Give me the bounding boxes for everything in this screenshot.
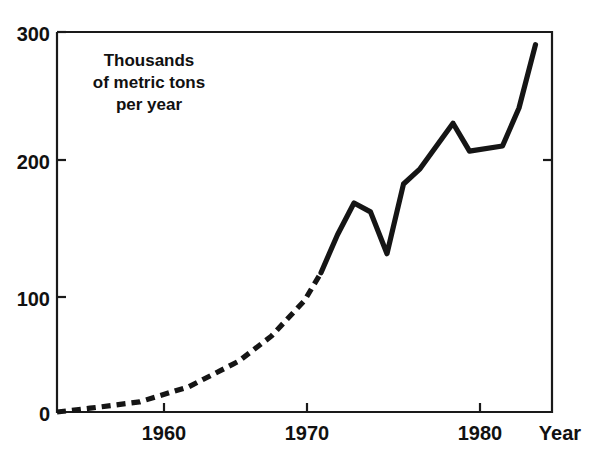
x-axis-title: Year <box>539 422 581 444</box>
ytick-label-300: 300 <box>17 23 50 45</box>
units-annotation-line-3: per year <box>116 95 183 114</box>
chart-container: 300 200 100 0 1960 1970 1980 Year Thousa… <box>0 0 604 457</box>
ytick-label-0: 0 <box>39 403 50 425</box>
xtick-label-1970: 1970 <box>285 422 330 444</box>
ytick-label-100: 100 <box>17 288 50 310</box>
xtick-label-1980: 1980 <box>458 422 503 444</box>
line-chart: 300 200 100 0 1960 1970 1980 Year Thousa… <box>0 0 604 457</box>
series-line-dashed <box>57 273 321 412</box>
xtick-label-1960: 1960 <box>142 422 187 444</box>
ytick-label-200: 200 <box>17 151 50 173</box>
units-annotation-line-2: of metric tons <box>93 73 205 92</box>
series-line-solid <box>321 45 536 273</box>
units-annotation-line-1: Thousands <box>104 51 195 70</box>
